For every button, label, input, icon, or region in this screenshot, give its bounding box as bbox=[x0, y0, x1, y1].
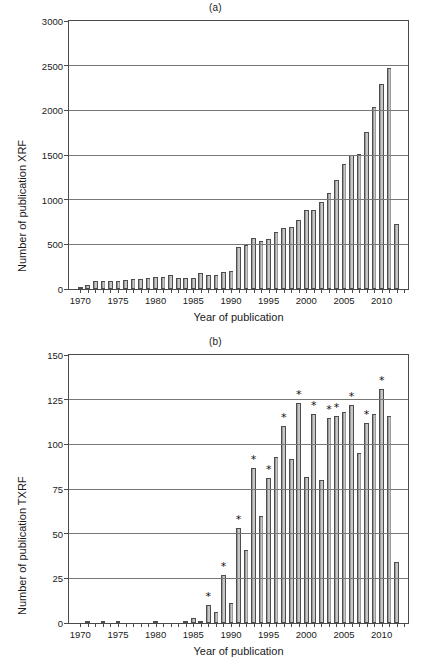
bar bbox=[357, 453, 362, 623]
y-tick-label: 2000 bbox=[42, 105, 69, 116]
bar bbox=[274, 457, 279, 623]
bar bbox=[357, 154, 362, 289]
x-tick-mark bbox=[382, 289, 383, 293]
x-tick-mark bbox=[141, 623, 142, 627]
x-tick-mark bbox=[216, 289, 217, 293]
bar bbox=[123, 280, 128, 289]
conference-star-marker: * bbox=[266, 464, 272, 475]
x-tick-mark bbox=[359, 623, 360, 627]
x-tick-mark bbox=[133, 289, 134, 293]
x-tick-mark bbox=[389, 289, 390, 293]
x-tick-mark bbox=[336, 289, 337, 293]
x-tick-mark bbox=[103, 623, 104, 627]
panel-a-y-axis-label: Number of publication XRF bbox=[16, 140, 28, 272]
panel-b-x-axis-label: Year of publication bbox=[68, 645, 409, 657]
bar bbox=[319, 202, 324, 289]
conference-star-marker: * bbox=[311, 400, 317, 411]
x-tick-mark bbox=[306, 623, 307, 627]
bar bbox=[372, 414, 377, 623]
x-tick-mark bbox=[88, 289, 89, 293]
panel-b: (b) Number of publication TXRF *********… bbox=[0, 334, 431, 668]
x-tick-mark bbox=[246, 289, 247, 293]
x-tick-mark bbox=[397, 623, 398, 627]
y-tick-label: 100 bbox=[47, 439, 69, 450]
x-tick-mark bbox=[216, 623, 217, 627]
bar bbox=[146, 278, 151, 289]
bar bbox=[206, 605, 211, 623]
panel-a: (a) Number of publication XRF 0500100015… bbox=[0, 0, 431, 334]
x-tick-label: 2000 bbox=[296, 295, 317, 306]
y-tick-label: 25 bbox=[52, 573, 69, 584]
x-tick-mark bbox=[186, 623, 187, 627]
gridline bbox=[69, 244, 408, 245]
x-tick-label: 2005 bbox=[333, 295, 354, 306]
bar bbox=[251, 468, 256, 623]
y-tick-label: 150 bbox=[47, 350, 69, 361]
x-tick-mark bbox=[239, 289, 240, 293]
gridline bbox=[69, 489, 408, 490]
bar bbox=[379, 389, 384, 623]
y-tick-label: 1500 bbox=[42, 150, 69, 161]
y-tick-label: 75 bbox=[52, 484, 69, 495]
bar bbox=[101, 281, 106, 289]
x-tick-label: 1985 bbox=[183, 629, 204, 640]
x-tick-mark bbox=[239, 623, 240, 627]
bar bbox=[394, 562, 399, 623]
x-tick-mark bbox=[299, 623, 300, 627]
x-tick-mark bbox=[284, 289, 285, 293]
bar bbox=[259, 516, 264, 623]
x-tick-mark bbox=[178, 623, 179, 627]
x-tick-mark bbox=[389, 623, 390, 627]
x-tick-mark bbox=[171, 289, 172, 293]
x-tick-mark bbox=[171, 623, 172, 627]
y-tick-label: 0 bbox=[58, 618, 69, 629]
x-tick-mark bbox=[80, 623, 81, 627]
bar bbox=[266, 239, 271, 289]
x-tick-mark bbox=[186, 289, 187, 293]
x-tick-mark bbox=[193, 289, 194, 293]
bar bbox=[236, 247, 241, 289]
conference-star-marker: * bbox=[379, 375, 385, 386]
x-tick-mark bbox=[110, 289, 111, 293]
x-tick-mark bbox=[314, 289, 315, 293]
x-tick-mark bbox=[201, 289, 202, 293]
conference-star-marker: * bbox=[364, 409, 370, 420]
y-tick-label: 125 bbox=[47, 394, 69, 405]
x-tick-mark bbox=[201, 623, 202, 627]
x-tick-mark bbox=[329, 289, 330, 293]
bar bbox=[93, 281, 98, 289]
x-tick-mark bbox=[193, 623, 194, 627]
x-tick-mark bbox=[299, 289, 300, 293]
x-tick-mark bbox=[276, 289, 277, 293]
x-tick-mark bbox=[306, 289, 307, 293]
x-tick-mark bbox=[223, 623, 224, 627]
x-tick-label: 1970 bbox=[70, 629, 91, 640]
panel-b-title: (b) bbox=[0, 336, 431, 347]
bar bbox=[191, 278, 196, 289]
bar bbox=[168, 275, 173, 289]
x-tick-mark bbox=[269, 623, 270, 627]
x-tick-mark bbox=[178, 289, 179, 293]
x-tick-mark bbox=[231, 623, 232, 627]
bar bbox=[319, 480, 324, 623]
x-tick-mark bbox=[269, 289, 270, 293]
conference-star-marker: * bbox=[349, 391, 355, 402]
y-tick-label: 0 bbox=[58, 284, 69, 295]
x-tick-mark bbox=[103, 289, 104, 293]
bar bbox=[289, 227, 294, 289]
x-tick-mark bbox=[95, 623, 96, 627]
bar bbox=[259, 241, 264, 289]
bar bbox=[379, 84, 384, 289]
x-tick-mark bbox=[208, 289, 209, 293]
x-tick-mark bbox=[208, 623, 209, 627]
gridline bbox=[69, 110, 408, 111]
bar bbox=[221, 272, 226, 289]
bar bbox=[296, 403, 301, 623]
bar bbox=[311, 210, 316, 289]
x-tick-mark bbox=[261, 289, 262, 293]
x-tick-mark bbox=[397, 289, 398, 293]
x-tick-label: 1975 bbox=[107, 629, 128, 640]
x-tick-label: 1995 bbox=[258, 295, 279, 306]
gridline bbox=[69, 533, 408, 534]
gridline bbox=[69, 199, 408, 200]
